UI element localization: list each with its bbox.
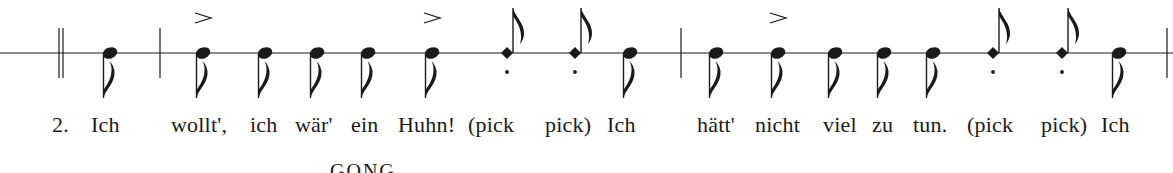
lyric-word: pick): [1041, 112, 1087, 138]
diamond-note: [1056, 8, 1079, 74]
staccato-dot: [573, 70, 577, 74]
lyric-word: Ich: [607, 112, 636, 138]
lyric-word: wollt',: [171, 112, 227, 138]
lyric-word: (pick: [468, 112, 514, 138]
eighth-note: [769, 13, 787, 98]
eighth-note: [1110, 45, 1128, 98]
diamond-note: [501, 8, 524, 74]
eighth-note: [359, 45, 377, 98]
accent-mark: [424, 13, 440, 23]
lyric-word: pick): [545, 112, 591, 138]
lyric-word: tun.: [913, 112, 947, 138]
music-staff: [0, 0, 1173, 173]
lyric-word: ein: [351, 112, 378, 138]
lyric-word: 2.: [52, 112, 69, 138]
diamond-note: [987, 8, 1010, 74]
lyric-word: Ich: [91, 112, 120, 138]
lyric-word: nicht: [755, 112, 800, 138]
eighth-note: [707, 45, 725, 98]
staccato-dot: [505, 70, 509, 74]
lyric-word: Ich: [1101, 112, 1130, 138]
eighth-note: [308, 45, 326, 98]
eighth-note: [826, 45, 844, 98]
lyric-word: zu: [872, 112, 893, 138]
accent-mark: [770, 13, 786, 23]
staccato-dot: [991, 70, 995, 74]
eighth-note: [256, 45, 274, 98]
accent-mark: [195, 13, 211, 23]
diamond-note: [569, 8, 592, 74]
eighth-note: [621, 45, 639, 98]
lyric-word: wär': [295, 112, 333, 138]
eighth-note: [194, 13, 212, 98]
eighth-note: [423, 13, 441, 98]
staccato-dot: [1060, 70, 1064, 74]
lyric-word: (pick: [967, 112, 1013, 138]
lyric-word: Huhn!: [398, 112, 455, 138]
eighth-note: [101, 45, 119, 98]
eighth-note: [924, 45, 942, 98]
lyric-word: viel: [823, 112, 857, 138]
eighth-note: [875, 45, 893, 98]
section-caption: GONG: [330, 160, 396, 173]
lyric-word: ich: [250, 112, 277, 138]
lyric-word: hätt': [697, 112, 735, 138]
